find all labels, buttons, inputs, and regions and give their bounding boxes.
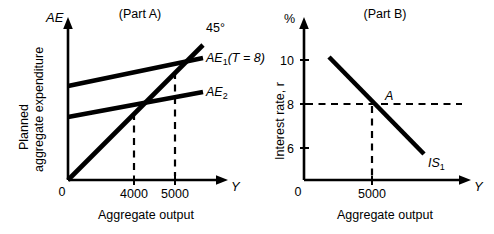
economics-figure: (Part A) AE Y 0 4000 5000	[0, 0, 494, 234]
part-a-label-ae2-subscript: 2	[223, 91, 228, 101]
figure-canvas: (Part A) AE Y 0 4000 5000	[0, 0, 494, 234]
part-a-xtick-label-5000: 5000	[161, 187, 189, 201]
part-b-ytick-label-10: 10	[280, 54, 294, 68]
part-a-panel: (Part A) AE Y 0 4000 5000	[17, 7, 265, 222]
part-b-label-is1: IS1	[428, 156, 445, 172]
part-a-x-axis-arrow	[216, 175, 228, 185]
part-b-x-axis-label: Aggregate output	[337, 208, 433, 222]
part-b-label-is1-subscript: 1	[440, 162, 445, 172]
part-a-ae1-curve	[68, 58, 203, 86]
part-b-label-is1-base: IS	[428, 156, 440, 170]
part-b-xtick-label-5000: 5000	[358, 187, 386, 201]
part-b-panel: (Part B) % Y 0 10 8 6 5000	[273, 7, 484, 222]
part-a-label-ae2: AE2	[205, 85, 228, 101]
part-a-y-axis-label-line2: aggregate expenditure	[32, 47, 46, 172]
part-b-title: (Part B)	[363, 7, 406, 21]
part-a-origin-label: 0	[59, 185, 66, 199]
part-b-origin-label: 0	[295, 185, 302, 199]
part-a-label-45-degree: 45°	[206, 21, 225, 35]
part-a-y-axis-label-line1: Planned	[17, 104, 31, 150]
part-b-ytick-label-8: 8	[287, 98, 294, 112]
part-a-y-axis-variable: AE	[45, 10, 64, 25]
part-b-y-axis-label: Interest rate, r	[273, 82, 287, 160]
part-a-xtick-label-4000: 4000	[120, 187, 148, 201]
part-a-label-ae2-base: AE	[205, 85, 223, 99]
part-b-ytick-label-6: 6	[287, 142, 294, 156]
part-a-label-ae1-base: AE	[205, 51, 223, 65]
part-a-label-ae1-suffix: (T = 8)	[228, 51, 265, 65]
part-a-x-axis-variable: Y	[231, 179, 241, 194]
part-a-title: (Part A)	[119, 7, 161, 21]
part-b-is1-curve	[329, 57, 424, 154]
part-b-y-axis-variable: %	[284, 12, 295, 26]
part-a-x-axis-label: Aggregate output	[98, 208, 194, 222]
part-b-x-axis-variable: Y	[474, 179, 484, 194]
part-b-y-axis-arrow	[299, 17, 309, 29]
part-a-label-ae1: AE1(T = 8)	[205, 51, 265, 67]
part-a-y-axis-arrow	[63, 17, 73, 29]
part-b-x-axis-arrow	[459, 175, 471, 185]
part-b-point-a-label: A	[384, 89, 393, 103]
